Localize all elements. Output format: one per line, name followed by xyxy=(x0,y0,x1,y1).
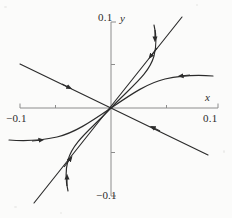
x-axis-name-label: x xyxy=(205,92,210,103)
plot-canvas xyxy=(0,0,232,218)
trajectory-orbit-upper-steep xyxy=(111,25,156,108)
phase-portrait-figure: 0.1 −0.1 −0.1 0.1 y x xyxy=(0,0,232,218)
trajectory-eigendirection-negative-slope xyxy=(20,64,208,155)
arrow-eigendirection-positive-lower-left xyxy=(64,158,71,167)
x-axis-max-tick-label: 0.1 xyxy=(203,113,217,124)
y-axis-max-tick-label: 0.1 xyxy=(98,12,112,23)
arrow-eigendirection-negative-upper-left xyxy=(62,84,70,88)
axes-group xyxy=(20,22,218,196)
y-axis-min-tick-label: −0.1 xyxy=(96,190,117,201)
trajectory-orbit-lower-steep xyxy=(66,108,111,191)
y-axis-name-label: y xyxy=(120,13,125,24)
x-axis-min-tick-label: −0.1 xyxy=(6,113,27,124)
trajectory-orbit-upper-shallow xyxy=(111,75,213,108)
